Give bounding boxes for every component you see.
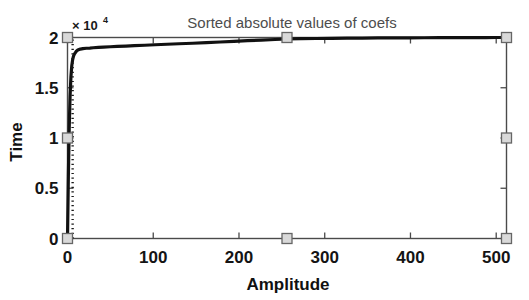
chart-plot-area: × 10 4 Sorted absolute values of coefs A… — [0, 0, 529, 300]
data-point-marker — [502, 133, 512, 143]
data-point-marker — [282, 234, 292, 244]
y-tick-label: 2 — [49, 29, 58, 48]
x-tick-label: 0 — [63, 248, 72, 267]
x-axis-title: Amplitude — [246, 275, 329, 294]
y-tick-label: 0 — [49, 230, 58, 249]
data-point-marker — [502, 33, 512, 43]
figure-background — [0, 0, 529, 300]
x-tick-label: 400 — [396, 248, 424, 267]
data-point-marker — [502, 234, 512, 244]
x-tick-label: 300 — [311, 248, 339, 267]
chart-figure: × 10 4 Sorted absolute values of coefs A… — [0, 0, 529, 300]
y-tick-label: 0.5 — [35, 179, 59, 198]
y-tick-label: 1.5 — [35, 79, 59, 98]
x-tick-label: 200 — [225, 248, 253, 267]
y-tick-label: 1 — [49, 129, 58, 148]
y-exponent-power: 4 — [103, 15, 108, 25]
y-exponent-base: × 10 — [72, 18, 98, 33]
data-point-marker — [63, 33, 73, 43]
chart-title: Sorted absolute values of coefs — [187, 14, 396, 31]
x-tick-label: 100 — [139, 248, 167, 267]
data-point-marker — [63, 133, 73, 143]
data-point-marker — [282, 33, 292, 43]
y-axis-title: Time — [7, 122, 26, 161]
x-tick-label: 500 — [482, 248, 510, 267]
data-point-marker — [63, 234, 73, 244]
